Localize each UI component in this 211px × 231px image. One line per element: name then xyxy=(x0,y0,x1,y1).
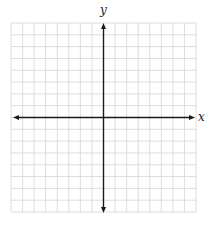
arrow-left-icon xyxy=(13,115,19,120)
arrow-up-icon xyxy=(101,23,106,29)
axes xyxy=(13,23,195,213)
arrow-right-icon xyxy=(189,115,195,120)
grid-svg xyxy=(0,0,211,231)
coordinate-plane: y x xyxy=(0,0,211,231)
x-axis-label: x xyxy=(198,111,205,123)
y-axis-label: y xyxy=(100,4,107,16)
